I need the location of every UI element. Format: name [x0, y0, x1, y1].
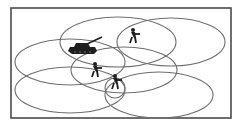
- coverage-diagram: [0, 0, 243, 125]
- ellipse-middle-left: [15, 39, 125, 85]
- diagram-canvas: [0, 0, 243, 125]
- ellipse-bottom-right: [105, 72, 213, 118]
- ellipse-bottom-left: [15, 67, 125, 113]
- coverage-ellipses: [15, 17, 225, 118]
- soldier-icon: [130, 28, 140, 43]
- soldier-icon: [112, 74, 122, 89]
